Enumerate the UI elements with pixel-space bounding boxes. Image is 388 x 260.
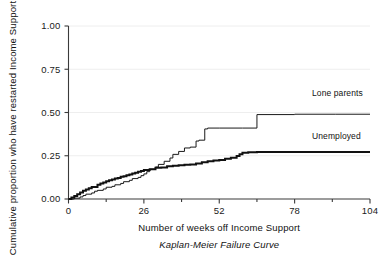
y-tick-label-2: 0.50 <box>41 107 60 118</box>
series-label-lone-parents: Lone parents <box>312 88 363 98</box>
x-axis-title: Number of weeks off Income Support <box>138 222 300 233</box>
y-axis-title: Cumulative proportion who have restarted… <box>7 1 18 256</box>
x-tick-label-3: 78 <box>289 205 300 216</box>
x-tick-label-2: 52 <box>214 205 225 216</box>
y-tick-label-0: 0.00 <box>41 193 60 204</box>
series-line-lone-parents <box>69 114 371 199</box>
kaplan-meier-chart: 0.000.250.500.751.000265278104 Lone pare… <box>0 0 388 260</box>
y-tick-label-3: 0.75 <box>41 64 60 75</box>
y-tick-label-4: 1.00 <box>41 20 60 31</box>
chart-subtitle: Kaplan-Meier Failure Curve <box>159 239 279 250</box>
axis-ticks <box>65 26 371 204</box>
y-tick-label-1: 0.25 <box>41 150 60 161</box>
data-series <box>69 114 371 199</box>
x-tick-label-1: 26 <box>138 205 149 216</box>
series-label-unemployed: Unemployed <box>312 131 361 141</box>
x-tick-label-0: 0 <box>66 205 71 216</box>
chart-svg: 0.000.250.500.751.000265278104 Lone pare… <box>0 0 388 260</box>
series-line-unemployed <box>69 152 371 199</box>
x-tick-label-4: 104 <box>362 205 378 216</box>
